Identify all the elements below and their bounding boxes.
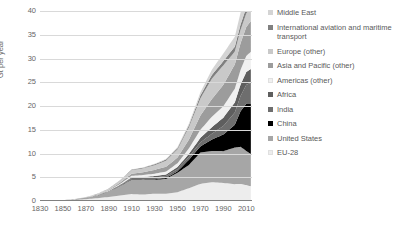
y-tick-label: 15: [6, 126, 36, 134]
legend-item[interactable]: Africa: [268, 90, 404, 100]
gridline: [40, 35, 252, 36]
gridline: [40, 106, 252, 107]
y-tick-label: 25: [6, 78, 36, 86]
stacked-area-chart: Gt per year 0510152025303540 18301850187…: [0, 0, 407, 238]
legend-item[interactable]: International aviation and maritime tran…: [268, 23, 404, 42]
legend-label: Asia and Pacific (other): [277, 61, 355, 71]
chart-legend: Middle EastInternational aviation and ma…: [268, 8, 404, 163]
y-tick-label: 30: [6, 55, 36, 63]
gridline: [40, 59, 252, 60]
x-tick-label: 2010: [229, 205, 263, 213]
legend-swatch-icon: [268, 78, 273, 83]
gridline: [40, 130, 252, 131]
legend-swatch-icon: [268, 10, 273, 15]
legend-item[interactable]: Europe (other): [268, 47, 404, 57]
legend-swatch-icon: [268, 150, 273, 155]
plot-area: [40, 11, 252, 201]
legend-item[interactable]: EU-28: [268, 148, 404, 158]
legend-label: Africa: [277, 90, 296, 100]
legend-item[interactable]: United States: [268, 134, 404, 144]
legend-label: United States: [277, 134, 322, 144]
legend-item[interactable]: China: [268, 119, 404, 129]
y-tick-label: 5: [6, 173, 36, 181]
legend-item[interactable]: Americas (other): [268, 76, 404, 86]
legend-item[interactable]: Asia and Pacific (other): [268, 61, 404, 71]
legend-swatch-icon: [268, 25, 273, 30]
gridline: [40, 154, 252, 155]
legend-swatch-icon: [268, 107, 273, 112]
gridline: [40, 82, 252, 83]
legend-swatch-icon: [268, 49, 273, 54]
gridline: [40, 177, 252, 178]
gridline: [40, 11, 252, 12]
y-tick-label: 20: [6, 102, 36, 110]
x-axis-line: [40, 200, 252, 201]
legend-label: China: [277, 119, 297, 129]
y-axis-title: Gt per year: [0, 40, 5, 78]
y-tick-label: 35: [6, 31, 36, 39]
legend-label: India: [277, 105, 293, 115]
legend-item[interactable]: India: [268, 105, 404, 115]
legend-item[interactable]: Middle East: [268, 8, 404, 18]
legend-swatch-icon: [268, 136, 273, 141]
legend-label: Europe (other): [277, 47, 325, 57]
legend-label: Middle East: [277, 8, 316, 18]
legend-swatch-icon: [268, 121, 273, 126]
y-tick-label: 40: [6, 7, 36, 15]
y-tick-label: 10: [6, 150, 36, 158]
legend-swatch-icon: [268, 63, 273, 68]
legend-label: International aviation and maritime tran…: [277, 23, 404, 42]
legend-label: Americas (other): [277, 76, 332, 86]
legend-label: EU-28: [277, 148, 298, 158]
legend-swatch-icon: [268, 92, 273, 97]
